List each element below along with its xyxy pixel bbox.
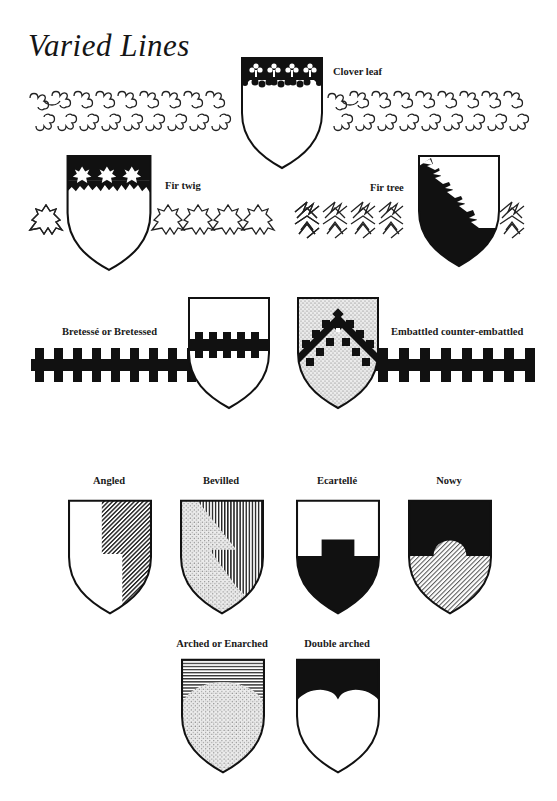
fir-twig-shield xyxy=(66,155,152,271)
double-arched-label: Double arched xyxy=(304,638,369,649)
ecartelle-shield xyxy=(296,499,380,615)
clover-leaf-label: Clover leaf xyxy=(333,66,382,77)
bevilled-shield xyxy=(180,499,264,615)
angled-shield xyxy=(68,499,152,615)
bretesse-shield xyxy=(188,297,270,409)
bretesse-border-line xyxy=(31,348,196,382)
clover-leaf-shield xyxy=(241,57,323,169)
fir-tree-shield xyxy=(418,155,500,265)
angled-label: Angled xyxy=(93,475,125,486)
fir-tree-label: Fir tree xyxy=(370,182,404,193)
bretesse-label: Bretessé or Bretessed xyxy=(62,326,157,337)
embattled-border-line xyxy=(370,348,535,382)
bevilled-label: Bevilled xyxy=(203,475,239,486)
nowy-label: Nowy xyxy=(436,475,462,486)
page-title: Varied Lines xyxy=(28,28,190,64)
double-arched-shield xyxy=(296,657,380,775)
nowy-shield xyxy=(408,499,492,615)
arched-label: Arched or Enarched xyxy=(176,638,268,649)
embattled-label: Embattled counter-embattled xyxy=(391,326,523,337)
arched-shield xyxy=(181,657,265,775)
fir-twig-label: Fir twig xyxy=(165,180,201,191)
ecartelle-label: Ecartellé xyxy=(317,475,357,486)
embattled-shield xyxy=(297,297,379,409)
